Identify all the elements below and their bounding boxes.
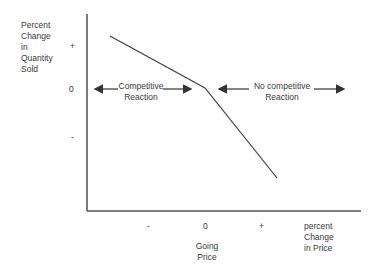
x-tick-minus: -	[147, 221, 150, 232]
y-tick-plus: +	[70, 41, 75, 52]
region-competitive-label: Competitive Reaction	[118, 81, 164, 103]
y-axis-label: Percent Change in Quantity Sold	[21, 20, 53, 75]
going-price-caption: Going Price	[192, 241, 222, 263]
x-tick-plus: +	[259, 221, 264, 232]
demand-curve	[110, 36, 277, 178]
x-tick-zero: 0	[203, 221, 208, 232]
region-no-competitive-label: No competitive Reaction	[250, 81, 314, 103]
y-tick-zero: 0	[69, 84, 74, 95]
x-axis-label: percent Change in Price	[304, 221, 334, 254]
y-tick-minus: -	[71, 132, 74, 143]
